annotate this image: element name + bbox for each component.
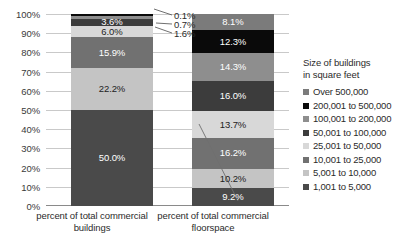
legend-swatch-icon (303, 89, 309, 95)
legend-swatch-icon (303, 130, 309, 136)
legend-swatch-icon (303, 143, 309, 149)
segment-value-label: 13.7% (220, 120, 246, 130)
segment-50001-to-100000[interactable]: 16.0% (192, 81, 274, 112)
x-label-floorspace: percent of total commercial floorspace (150, 210, 276, 233)
stacked-bar-chart: 100%90%80%70%60%50%40%30%20%10%0% 0.1% 0… (0, 0, 413, 251)
legend-item-3[interactable]: 50,001 to 100,000 (303, 128, 413, 138)
legend-item-4[interactable]: 25,001 to 50,000 (303, 141, 413, 151)
legend-item-0[interactable]: Over 500,000 (303, 87, 413, 97)
segment-5001-to-10000[interactable]: 10.2% (192, 169, 274, 189)
y-axis-tick-50pct: 50% (21, 105, 40, 116)
segment-value-label: 50.0% (99, 153, 125, 163)
bar-percent-of-total-commercial-buildings[interactable]: 0.1% 0.7% 1.6% 3.6% 6.0% 15.9% 22.2% 50.… (71, 14, 153, 206)
legend-item-label: 10,001 to 25,000 (313, 155, 381, 165)
legend-item-6[interactable]: 5,001 to 10,000 (303, 168, 413, 178)
y-axis-tick-30pct: 30% (21, 143, 40, 154)
segment-value-label: 8.1% (222, 17, 243, 27)
segment-25001-to-50000[interactable]: 6.0% (71, 26, 153, 38)
segment-1001-to-5000[interactable]: 50.0% (71, 110, 153, 206)
y-axis-tick-60pct: 60% (21, 85, 40, 96)
segment-value-label: 14.3% (220, 62, 246, 72)
legend: Size of buildings in square feet Over 50… (303, 57, 413, 195)
y-axis-tick-10pct: 10% (21, 181, 40, 192)
y-axis-tick-80pct: 80% (21, 47, 40, 58)
segment-25001-to-50000[interactable]: 13.7% (192, 111, 274, 137)
segment-1001-to-5000[interactable]: 9.2% (192, 188, 274, 206)
legend-title-line1: Size of buildings (303, 57, 370, 68)
legend-swatch-icon (303, 184, 309, 190)
legend-swatch-icon (303, 157, 309, 163)
segment-10001-to-25000[interactable]: 16.2% (192, 138, 274, 169)
y-axis-tick-100pct: 100% (16, 9, 40, 20)
legend-title-line2: in square feet (303, 69, 359, 80)
legend-item-1[interactable]: 200,001 to 500,000 (303, 101, 413, 111)
segment-value-label: 12.3% (220, 37, 246, 47)
segment-value-label: 22.2% (99, 84, 125, 94)
y-axis-tick-20pct: 20% (21, 162, 40, 173)
y-axis-tick-70pct: 70% (21, 66, 40, 77)
x-label-buildings-line2: buildings (74, 222, 111, 233)
segment-100001-to-200000[interactable]: 14.3% (192, 53, 274, 80)
segment-10001-to-25000[interactable]: 15.9% (71, 37, 153, 68)
legend-item-label: 200,001 to 500,000 (313, 101, 391, 111)
segment-value-label: 16.0% (220, 91, 246, 101)
legend-item-label: 1,001 to 5,000 (313, 182, 371, 192)
callout-label-100001-to-200000: 1.6% (174, 28, 195, 39)
legend-item-label: 5,001 to 10,000 (313, 168, 376, 178)
callout-group: 0.1% 0.7% 1.6% (152, 8, 222, 48)
segment-value-label: 9.2% (222, 192, 243, 202)
segment-value-label: 16.2% (220, 148, 246, 158)
x-label-buildings-line1: percent of total commercial (36, 210, 147, 221)
legend-swatch-icon (303, 116, 309, 122)
x-label-floorspace-line1: percent of total commercial (157, 210, 268, 221)
x-label-floorspace-line2: floorspace (192, 222, 235, 233)
legend-item-label: Over 500,000 (313, 87, 368, 97)
x-axis-labels: percent of total commercial buildings pe… (46, 210, 289, 244)
segment-value-label: 15.9% (99, 48, 125, 58)
segment-50001-to-100000[interactable]: 3.6% (71, 19, 153, 26)
segment-5001-to-10000[interactable]: 22.2% (71, 68, 153, 111)
legend-item-label: 50,001 to 100,000 (313, 128, 386, 138)
legend-item-label: 100,001 to 200,000 (313, 114, 391, 124)
legend-title: Size of buildings in square feet (303, 57, 413, 80)
legend-item-label: 25,001 to 50,000 (313, 141, 381, 151)
legend-item-2[interactable]: 100,001 to 200,000 (303, 114, 413, 124)
legend-swatch-icon (303, 170, 309, 176)
x-label-buildings: percent of total commercial buildings (29, 210, 155, 233)
legend-items: Over 500,000200,001 to 500,000100,001 to… (303, 87, 413, 192)
legend-swatch-icon (303, 103, 309, 109)
segment-value-label: 10.2% (220, 174, 246, 184)
y-axis-tick-90pct: 90% (21, 28, 40, 39)
y-axis: 100%90%80%70%60%50%40%30%20%10%0% (0, 14, 44, 206)
y-axis-tick-40pct: 40% (21, 124, 40, 135)
legend-item-7[interactable]: 1,001 to 5,000 (303, 182, 413, 192)
segment-value-label: 6.0% (101, 27, 122, 37)
legend-item-5[interactable]: 10,001 to 25,000 (303, 155, 413, 165)
